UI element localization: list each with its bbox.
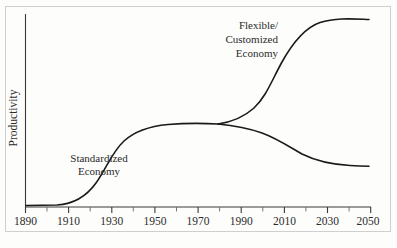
annotation-flexible-line2: Customized: [225, 33, 278, 45]
chart-plot-area: 1890 1910 1930 1950 1970 1990 2010 2030 …: [0, 0, 397, 248]
x-tick-label-2050: 2050: [357, 215, 380, 227]
x-tick-label-1970: 1970: [187, 215, 210, 227]
x-tick-label-1910: 1910: [57, 215, 80, 227]
x-axis-major-ticks: [26, 207, 371, 213]
curve-shared-trunk: [26, 123, 218, 205]
x-tick-label-2010: 2010: [273, 215, 296, 227]
x-tick-label-1930: 1930: [100, 215, 123, 227]
x-tick-label-1990: 1990: [230, 215, 253, 227]
annotation-standardized-line1: Standardized: [70, 152, 128, 164]
x-tick-label-2030: 2030: [316, 215, 339, 227]
x-tick-label-1890: 1890: [14, 215, 37, 227]
curve-standardized-decline: [218, 124, 369, 166]
annotation-flexible-line3: Economy: [236, 47, 279, 59]
y-axis-title: Productivity: [7, 89, 20, 146]
chart-figure: 1890 1910 1930 1950 1970 1990 2010 2030 …: [0, 0, 397, 248]
x-tick-label-1950: 1950: [143, 215, 166, 227]
annotation-flexible-line1: Flexible/: [239, 19, 279, 31]
annotation-standardized-line2: Economy: [78, 165, 121, 177]
